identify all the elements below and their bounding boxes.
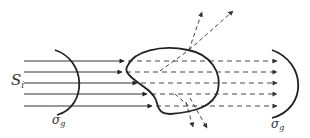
incident-source-symbol: S bbox=[11, 71, 21, 89]
scattered-ray-down-1 bbox=[186, 102, 193, 127]
left-surface-subscript: g bbox=[60, 119, 65, 128]
incident-rays bbox=[24, 61, 152, 106]
scattering-diagram bbox=[0, 0, 310, 138]
scattered-ray-down-2 bbox=[190, 98, 207, 128]
scattered-ray-up-2 bbox=[189, 11, 233, 50]
transmitted-rays bbox=[126, 61, 277, 106]
right-surface-label: σg bbox=[271, 117, 284, 132]
incident-source-label: Si bbox=[11, 71, 24, 90]
right-surface-subscript: g bbox=[279, 123, 284, 132]
scatter-inner-down bbox=[175, 94, 190, 107]
scattered-rays-up bbox=[160, 11, 233, 71]
right-surface-arc bbox=[272, 50, 298, 118]
right-surface-symbol: σ bbox=[271, 117, 279, 131]
incident-source-subscript: i bbox=[21, 80, 24, 90]
left-surface-symbol: σ bbox=[52, 113, 60, 127]
scattering-object bbox=[126, 48, 218, 114]
left-surface-label: σg bbox=[52, 113, 65, 128]
